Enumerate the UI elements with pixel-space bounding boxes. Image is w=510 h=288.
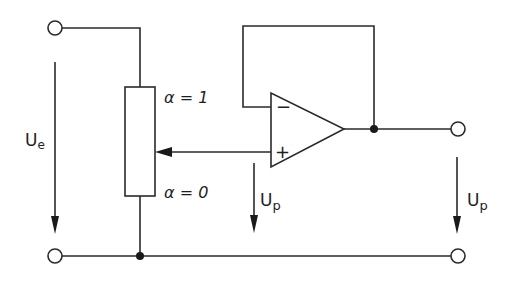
input-voltage-label: Ue: [25, 130, 45, 152]
output-node: [370, 125, 378, 133]
feedback-wire: [243, 26, 374, 129]
pot-bottom-label: α = 0: [164, 183, 208, 202]
opamp-plus-sign: +: [275, 141, 290, 162]
input-terminal-top: [48, 21, 62, 35]
output-voltage-arrow: [453, 157, 461, 234]
output-voltage-label: Up: [467, 190, 488, 213]
output-terminal-bottom: [451, 249, 465, 263]
pot-top-label: α = 1: [164, 88, 208, 107]
circuit-diagram: − + Ue α = 1 α = 0 Up Up: [0, 0, 510, 288]
input-terminal-bottom: [48, 249, 62, 263]
ground-node: [136, 252, 144, 260]
input-wire-top: [62, 28, 140, 87]
wiper-arrow: [155, 147, 271, 157]
output-terminal-top: [451, 122, 465, 136]
opamp-minus-sign: −: [276, 96, 291, 117]
potentiometer: [125, 87, 155, 196]
input-voltage-arrow: [51, 62, 59, 234]
wiper-voltage-arrow: [250, 163, 258, 233]
wiper-voltage-label: Up: [260, 190, 281, 213]
